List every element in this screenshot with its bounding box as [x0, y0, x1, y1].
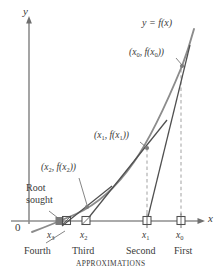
tick-label-x2: x2 [80, 231, 87, 242]
dashed-ordinates [147, 69, 181, 218]
point-label-x1-text: (x1, f(x1)) [94, 130, 129, 140]
root-sought-label-line2: sought [26, 195, 53, 206]
approximations-caption: APPROXIMATIONS [76, 260, 145, 268]
point-label-x0: ((xx0, f(x0)) [129, 48, 164, 59]
tick-label-x3: x3 [47, 231, 54, 242]
point-label-x1: (x1, f(x1)) [94, 131, 129, 142]
curve-equation-text: y = f(x) [142, 17, 172, 28]
ordinal-label-first: First [174, 246, 192, 257]
ordinal-label-second: Second [126, 246, 155, 257]
point-label-x2: (x2, f(x2)) [41, 163, 76, 174]
leader-line-root [49, 211, 58, 218]
ordinal-label-fourth: Fourth [24, 246, 51, 257]
curve-equation-label: y = f(x) [142, 18, 172, 29]
newtons-method-figure: y x 0 y = f(x) ((xx0, f(x0)) (x1, f(x1))… [0, 0, 224, 276]
tangent-line-at-x0 [147, 45, 190, 221]
tick-label-x1: x1 [142, 231, 149, 242]
leader-line-point0 [176, 58, 182, 65]
origin-label: 0 [15, 222, 21, 234]
root-sought-label-line1: Root [26, 183, 45, 194]
point-label-x2-text: (x2, f(x2)) [41, 162, 76, 172]
leader-lines [46, 58, 182, 243]
leader-line-point2 [79, 178, 87, 205]
y-axis-label: y [23, 6, 28, 18]
tick-label-x0: x0 [176, 231, 183, 242]
x-axis-label: x [208, 213, 213, 225]
ordinal-label-third: Third [72, 246, 94, 257]
point-x2-marker [85, 205, 89, 209]
x-axis-arrowhead [198, 218, 206, 224]
point-label-x0-text: ((xx0, f(x0)) [129, 47, 164, 57]
